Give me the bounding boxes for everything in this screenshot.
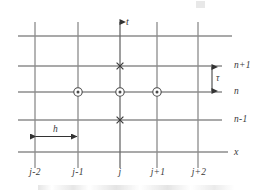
row-label-n-minus-1: n-1	[234, 115, 248, 125]
tick-label-j: j	[119, 168, 122, 178]
tau-spacing-label: τ	[216, 74, 219, 84]
marker-circle-j-n	[116, 88, 124, 96]
h-spacing-label: h	[53, 125, 58, 135]
scan-artifact-top	[196, 1, 205, 8]
marker-circle-j-plus-1-n	[153, 88, 161, 96]
figure-canvas: n+1 n n-1 x t j-2 j-1 j j+1 j+2 h τ	[0, 0, 268, 194]
grid-diagram	[0, 0, 268, 194]
tick-label-j-plus-1: j+1	[151, 168, 166, 178]
t-axis-label: t	[126, 17, 129, 27]
tick-label-j-plus-2: j+2	[192, 168, 207, 178]
tick-label-j-minus-2: j-2	[29, 168, 40, 178]
caption-partial-text	[38, 185, 234, 190]
tick-label-j-minus-1: j-1	[72, 168, 83, 178]
marker-circle-j-minus-1-n	[74, 88, 82, 96]
horizontal-grid-lines	[18, 36, 232, 152]
row-label-n-plus-1: n+1	[234, 61, 251, 71]
row-label-n: n	[234, 87, 239, 97]
x-axis-label: x	[234, 147, 238, 157]
